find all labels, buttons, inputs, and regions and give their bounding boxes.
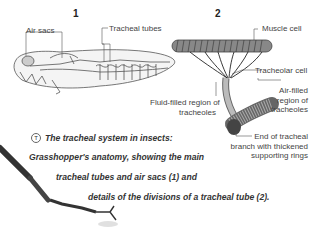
label-fluid-filled-region: Fluid-filled region of tracheoles [150, 98, 216, 117]
panel-2-number: 2 [215, 8, 221, 19]
label-tracheolar-cell: Tracheolar cell [255, 66, 307, 76]
label-air-filled-region: Air-filled region of tracheoles [262, 86, 308, 115]
caption-line-3: tracheal tubes and air sacs (1) and [56, 172, 197, 182]
caption-marker-icon: T [31, 133, 41, 143]
tracheal-tube-drawing [172, 40, 272, 135]
panel-1-number: 1 [73, 8, 79, 19]
caption-title: TThe tracheal system in insects: [31, 133, 173, 143]
caption-line-4: details of the divisions of a tracheal t… [88, 192, 269, 202]
label-air-sacs: Air sacs [26, 26, 54, 36]
label-end-of-tracheal-branch: End of tracheal branch with thickened su… [226, 132, 308, 161]
caption-line-2: Grasshopper's anatomy, showing the main [29, 152, 204, 162]
grasshopper-anatomy-drawing [14, 50, 175, 94]
label-muscle-cell: Muscle cell [262, 24, 302, 34]
label-tracheal-tubes: Tracheal tubes [109, 24, 162, 34]
